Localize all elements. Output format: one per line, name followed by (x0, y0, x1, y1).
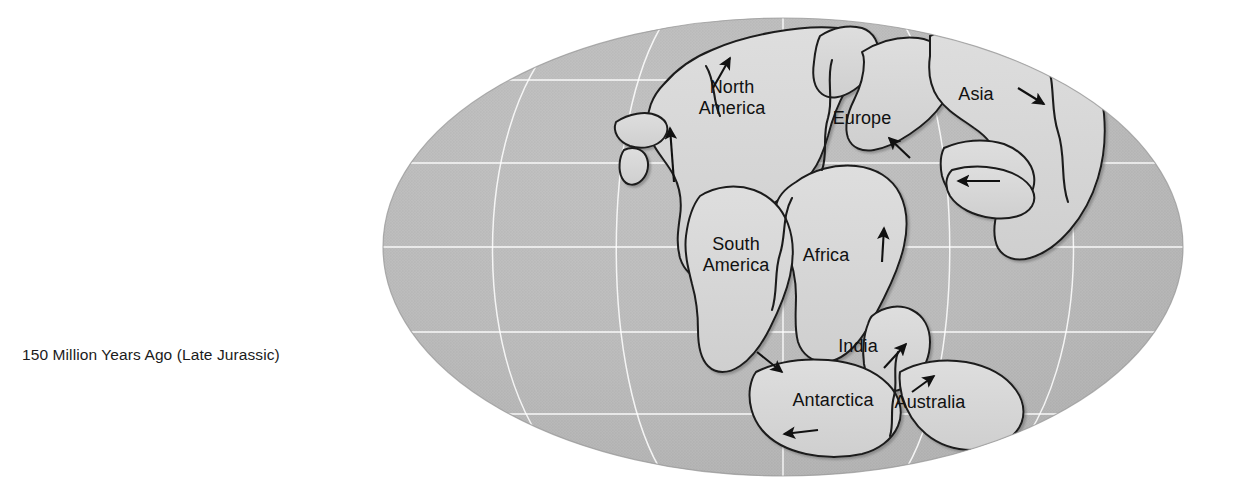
map-label-africa: Africa (803, 245, 850, 266)
map-label-line: Asia (958, 84, 993, 105)
map-label-line: America (703, 255, 770, 276)
map-label-line: Europe (833, 108, 892, 129)
landmass-terrane-pacific (620, 148, 649, 185)
map-label-line: South (703, 234, 770, 255)
map-label-line: Antarctica (792, 390, 873, 411)
landmass-terrane-caribbean (615, 113, 668, 148)
map-label-asia: Asia (958, 84, 993, 105)
map-label-line: America (699, 98, 766, 119)
map-label-south-america: South America (703, 234, 770, 276)
map-label-line: India (838, 336, 878, 357)
map-label-india: India (838, 336, 878, 357)
map-label-line: Australia (895, 392, 966, 413)
map-label-north-america: North America (699, 77, 766, 119)
map-label-europe: Europe (833, 108, 892, 129)
figure-caption: 150 Million Years Ago (Late Jurassic) (22, 345, 280, 365)
map-label-antarctica: Antarctica (792, 390, 873, 411)
world-map-globe (0, 0, 1248, 492)
map-label-line: Africa (803, 245, 850, 266)
map-label-australia: Australia (895, 392, 966, 413)
paleogeographic-figure: North America Europe Asia South America … (0, 0, 1248, 492)
map-label-line: North (699, 77, 766, 98)
